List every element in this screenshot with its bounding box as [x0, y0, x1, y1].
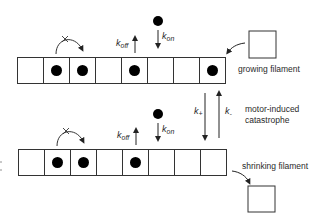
- filament-subunit: [201, 150, 227, 176]
- filament-diagram: koff kon growing filament k+ k- motor-in…: [0, 0, 321, 217]
- shrinking-filament-row: [19, 150, 227, 176]
- cap-arrow-top: [228, 43, 245, 52]
- k-off-label-bottom: koff: [117, 130, 129, 143]
- growing-filament-label: growing filament: [238, 64, 300, 74]
- bound-motor-dot: [207, 65, 218, 76]
- filament-subunit: [19, 150, 45, 176]
- filament-subunit: [149, 150, 175, 176]
- k-off-label-top: koff: [116, 38, 128, 51]
- blocked-hop-arrow-top: [56, 36, 82, 54]
- k-minus-label: k-: [225, 106, 232, 119]
- cap-box-top: [249, 31, 276, 58]
- blocked-hop-arrow-bottom: [57, 128, 83, 146]
- transition-label-line2: catastrophe: [245, 115, 289, 125]
- filament-subunit: [174, 58, 200, 84]
- k-on-label-bottom: kon: [162, 124, 174, 137]
- free-monomer-bottom: [153, 109, 163, 119]
- bound-motor-dot: [130, 157, 141, 168]
- filament-subunit: [96, 58, 122, 84]
- filament-subunit: [97, 150, 123, 176]
- bound-motor-dot: [52, 157, 63, 168]
- left-edge-ticks: [0, 162, 2, 170]
- bound-motor-dot: [78, 157, 89, 168]
- cap-box-bottom: [248, 186, 275, 212]
- free-monomer-top: [153, 16, 163, 26]
- filament-subunit: [148, 58, 174, 84]
- filament-subunit: [175, 150, 201, 176]
- shrinking-filament-label: shrinking filament: [242, 161, 308, 171]
- bound-motor-dot: [51, 65, 62, 76]
- k-plus-label: k+: [194, 106, 203, 119]
- bound-motor-dot: [77, 65, 88, 76]
- growing-filament-row: [18, 58, 226, 84]
- transition-label-line1: motor-induced: [245, 104, 299, 114]
- bound-motor-dot: [129, 65, 140, 76]
- filament-subunit: [18, 58, 44, 84]
- release-arrow-bottom: [232, 171, 249, 182]
- k-on-label-top: kon: [162, 31, 174, 44]
